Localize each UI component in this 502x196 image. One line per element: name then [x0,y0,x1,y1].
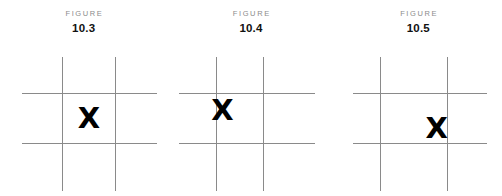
grid-horizontal-line-top [22,93,157,94]
x-mark-icon: X [211,96,233,125]
x-mark-icon: X [425,114,447,143]
figures-row: FIGURE 10.3 X FIGURE 10.4 X FIGURE 10.5 [0,0,502,196]
tic-tac-toe-grid-2: X [167,0,334,196]
x-mark-icon: X [78,104,100,133]
grid-horizontal-line-bottom [22,143,157,144]
grid-vertical-line-right [263,57,264,191]
grid-horizontal-line-top [179,93,315,94]
figure-panel-3: FIGURE 10.5 X [335,0,502,196]
grid-vertical-line-left [380,57,381,191]
figure-panel-2: FIGURE 10.4 X [167,0,334,196]
grid-vertical-line-left [62,57,63,191]
grid-horizontal-line-top [353,93,487,94]
grid-horizontal-line-bottom [353,143,487,144]
figure-panel-1: FIGURE 10.3 X [0,0,167,196]
grid-vertical-line-right [115,57,116,191]
grid-horizontal-line-bottom [179,143,315,144]
tic-tac-toe-grid-3: X [335,0,502,196]
tic-tac-toe-grid-1: X [0,0,167,196]
